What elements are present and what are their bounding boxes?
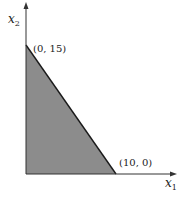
vertex-label-10-0: (10, 0) [119,157,152,168]
y-axis-arrow-icon [24,2,29,9]
feasible-region-diagram: x2 x1 (0, 15) (10, 0) [0,0,187,197]
x-axis-label: x1 [165,176,177,192]
vertex-label-0-15: (0, 15) [33,43,66,54]
y-axis-label: x2 [8,12,20,28]
